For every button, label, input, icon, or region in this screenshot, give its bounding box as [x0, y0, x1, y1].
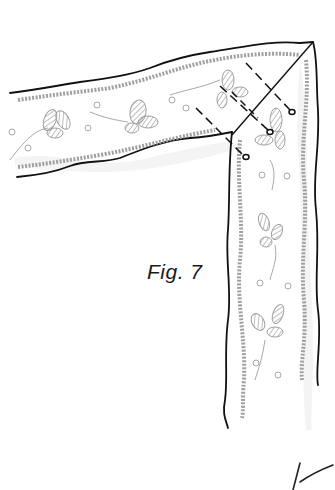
- pin-head-icon: [243, 155, 249, 160]
- pin-head-icon: [267, 130, 273, 135]
- corner-mark: [293, 463, 333, 490]
- figure-caption: Fig. 7: [147, 260, 203, 284]
- pin-head-icon: [289, 110, 295, 115]
- trim-corner-sketch: [0, 0, 335, 490]
- illustration: [0, 0, 335, 490]
